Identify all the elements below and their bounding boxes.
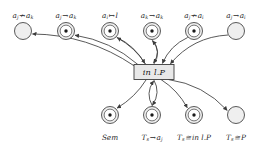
place-label: Ts ≅ in l.P: [177, 134, 211, 142]
petri-net-figure: [0, 0, 263, 144]
place-label: aj → ak: [56, 12, 77, 20]
edge-out: [117, 38, 146, 65]
edge-in: [149, 81, 154, 106]
token-dot: [150, 29, 153, 32]
edge-in: [170, 35, 228, 64]
place-label: aj ↛ ai: [184, 12, 203, 20]
place-node: [186, 23, 203, 40]
transition-label: in l.P: [143, 67, 165, 77]
token-dot: [150, 113, 153, 116]
place-label: Ts → aj: [142, 134, 163, 142]
edge-group: [32, 34, 228, 110]
place-circle: [15, 23, 32, 40]
edge-out: [117, 80, 146, 109]
place-label: aj → ai: [226, 12, 245, 20]
place-label: ak → ak: [141, 12, 163, 20]
edge-out: [168, 80, 227, 111]
place-circle: [228, 23, 245, 40]
token-dot: [64, 29, 67, 32]
place-node: [15, 23, 32, 40]
token-dot: [192, 29, 195, 32]
place-label: Sem: [102, 134, 118, 141]
place-node: [58, 23, 75, 40]
place-node: [228, 23, 245, 40]
place-label: aj ↛ ak: [13, 12, 34, 20]
token-dot: [192, 113, 195, 116]
place-node: [186, 107, 203, 124]
place-circle: [228, 107, 245, 124]
place-label: ai ↦ l: [102, 12, 118, 20]
place-node: [144, 23, 161, 40]
place-node: [102, 23, 119, 40]
diagram-canvas: aj ↛ akaj → akai ↦ lak → akaj ↛ aiaj → a…: [0, 0, 263, 144]
place-node: [102, 107, 119, 124]
edge-out: [152, 80, 157, 106]
place-node: [228, 107, 245, 124]
place-label: Ts ≅ P: [226, 134, 246, 142]
token-dot: [108, 113, 111, 116]
token-dot: [108, 29, 111, 32]
place-node: [144, 107, 161, 124]
edge-out: [161, 80, 187, 108]
edge-in: [117, 37, 145, 63]
